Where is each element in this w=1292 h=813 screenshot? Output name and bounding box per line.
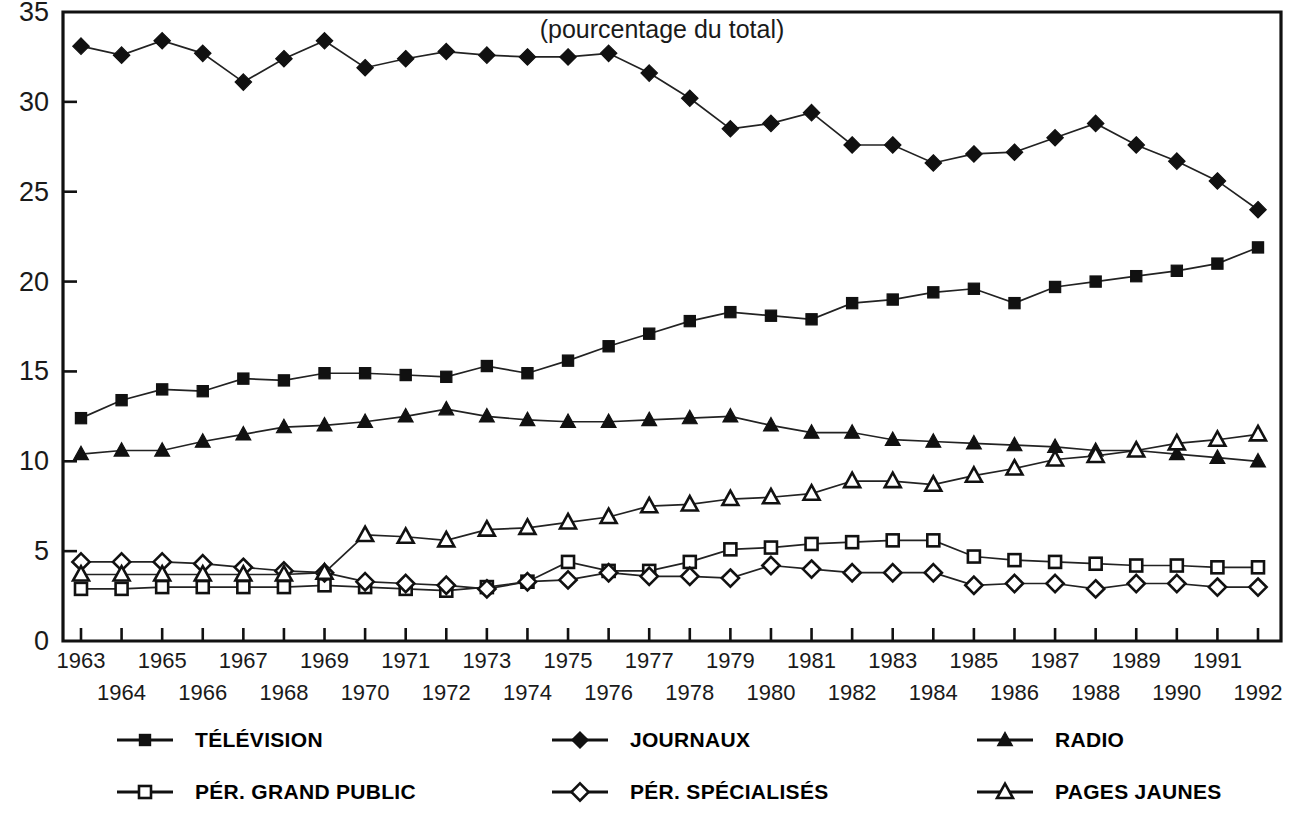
y-tick-label: 35	[19, 0, 49, 27]
data-point-marker	[846, 536, 858, 548]
x-tick-label: 1979	[706, 648, 755, 673]
x-axis-labels-row-top: 1963196519671969197119731975197719791981…	[57, 648, 1242, 673]
legend-label: RADIO	[1055, 728, 1124, 751]
data-point-marker	[116, 583, 128, 595]
data-point-marker	[603, 341, 614, 352]
x-tick-label: 1970	[341, 680, 390, 705]
data-point-marker	[1212, 258, 1223, 269]
data-point-marker	[400, 369, 411, 380]
data-point-marker	[197, 386, 208, 397]
y-tick-label: 30	[19, 87, 49, 117]
data-point-marker	[1211, 561, 1223, 573]
data-point-marker	[1009, 298, 1020, 309]
x-tick-label: 1988	[1071, 680, 1120, 705]
x-tick-label: 1974	[503, 680, 552, 705]
data-point-marker	[278, 375, 289, 386]
x-tick-label: 1992	[1234, 680, 1283, 705]
data-point-marker	[847, 298, 858, 309]
legend-label: PÉR. SPÉCIALISÉS	[630, 780, 829, 803]
line-chart-figure: 05101520253035 1963196519671969197119731…	[0, 0, 1292, 813]
data-point-marker	[725, 307, 736, 318]
x-tick-label: 1985	[949, 648, 998, 673]
data-point-marker	[724, 543, 736, 555]
legend-label: TÉLÉVISION	[195, 728, 323, 751]
x-tick-label: 1969	[300, 648, 349, 673]
x-tick-label: 1971	[381, 648, 430, 673]
x-tick-label: 1987	[1031, 648, 1080, 673]
data-point-marker	[116, 395, 127, 406]
data-point-marker	[156, 581, 168, 593]
data-point-marker	[319, 368, 330, 379]
data-point-marker	[968, 551, 980, 563]
data-point-marker	[75, 413, 86, 424]
x-tick-label: 1966	[178, 680, 227, 705]
data-point-marker	[806, 314, 817, 325]
x-tick-label: 1982	[828, 680, 877, 705]
x-tick-label: 1978	[665, 680, 714, 705]
legend-label: PAGES JAUNES	[1055, 780, 1222, 803]
data-point-marker	[1171, 265, 1182, 276]
data-point-marker	[1090, 558, 1102, 570]
data-point-marker	[562, 556, 574, 568]
x-tick-label: 1964	[97, 680, 146, 705]
x-tick-label: 1973	[462, 648, 511, 673]
x-tick-label: 1975	[544, 648, 593, 673]
data-point-marker	[562, 355, 573, 366]
data-point-marker	[441, 371, 452, 382]
y-tick-label: 20	[19, 267, 49, 297]
data-point-marker	[1252, 242, 1263, 253]
y-tick-label: 5	[34, 536, 49, 566]
data-point-marker	[806, 538, 818, 550]
x-tick-label: 1967	[219, 648, 268, 673]
data-point-marker	[765, 542, 777, 554]
x-tick-label: 1989	[1112, 648, 1161, 673]
data-point-marker	[360, 368, 371, 379]
data-point-marker	[765, 310, 776, 321]
data-point-marker	[278, 581, 290, 593]
data-point-marker	[927, 534, 939, 546]
data-point-marker	[238, 373, 249, 384]
x-tick-label: 1980	[746, 680, 795, 705]
data-point-marker	[887, 534, 899, 546]
data-point-marker	[157, 384, 168, 395]
data-point-marker	[1049, 556, 1061, 568]
data-point-marker	[139, 786, 151, 798]
x-tick-label: 1963	[57, 648, 106, 673]
y-tick-label: 0	[34, 626, 49, 656]
data-point-marker	[968, 283, 979, 294]
data-point-marker	[481, 360, 492, 371]
x-tick-label: 1976	[584, 680, 633, 705]
data-point-marker	[237, 581, 249, 593]
data-point-marker	[1252, 561, 1264, 573]
data-point-marker	[1090, 276, 1101, 287]
y-tick-label: 10	[19, 446, 49, 476]
chart-page: 05101520253035 1963196519671969197119731…	[0, 0, 1292, 813]
data-point-marker	[522, 368, 533, 379]
x-tick-label: 1986	[990, 680, 1039, 705]
x-tick-label: 1984	[909, 680, 958, 705]
x-tick-label: 1977	[625, 648, 674, 673]
y-tick-label: 25	[19, 177, 49, 207]
x-tick-label: 1968	[259, 680, 308, 705]
data-point-marker	[928, 287, 939, 298]
x-tick-label: 1981	[787, 648, 836, 673]
data-point-marker	[139, 734, 150, 745]
data-point-marker	[644, 328, 655, 339]
data-point-marker	[1049, 281, 1060, 292]
data-point-marker	[1171, 560, 1183, 572]
data-point-marker	[197, 581, 209, 593]
data-point-marker	[1008, 554, 1020, 566]
legend-label: PÉR. GRAND PUBLIC	[195, 780, 416, 803]
data-point-marker	[1130, 560, 1142, 572]
data-point-marker	[887, 294, 898, 305]
data-point-marker	[684, 316, 695, 327]
x-tick-label: 1972	[422, 680, 471, 705]
x-tick-label: 1983	[868, 648, 917, 673]
y-tick-label: 15	[19, 356, 49, 386]
x-axis-labels-row-bottom: 1964196619681970197219741976197819801982…	[97, 680, 1282, 705]
data-point-marker	[75, 583, 87, 595]
x-tick-label: 1991	[1193, 648, 1242, 673]
x-tick-label: 1990	[1152, 680, 1201, 705]
x-tick-label: 1965	[138, 648, 187, 673]
chart-title: (pourcentage du total)	[540, 15, 785, 43]
